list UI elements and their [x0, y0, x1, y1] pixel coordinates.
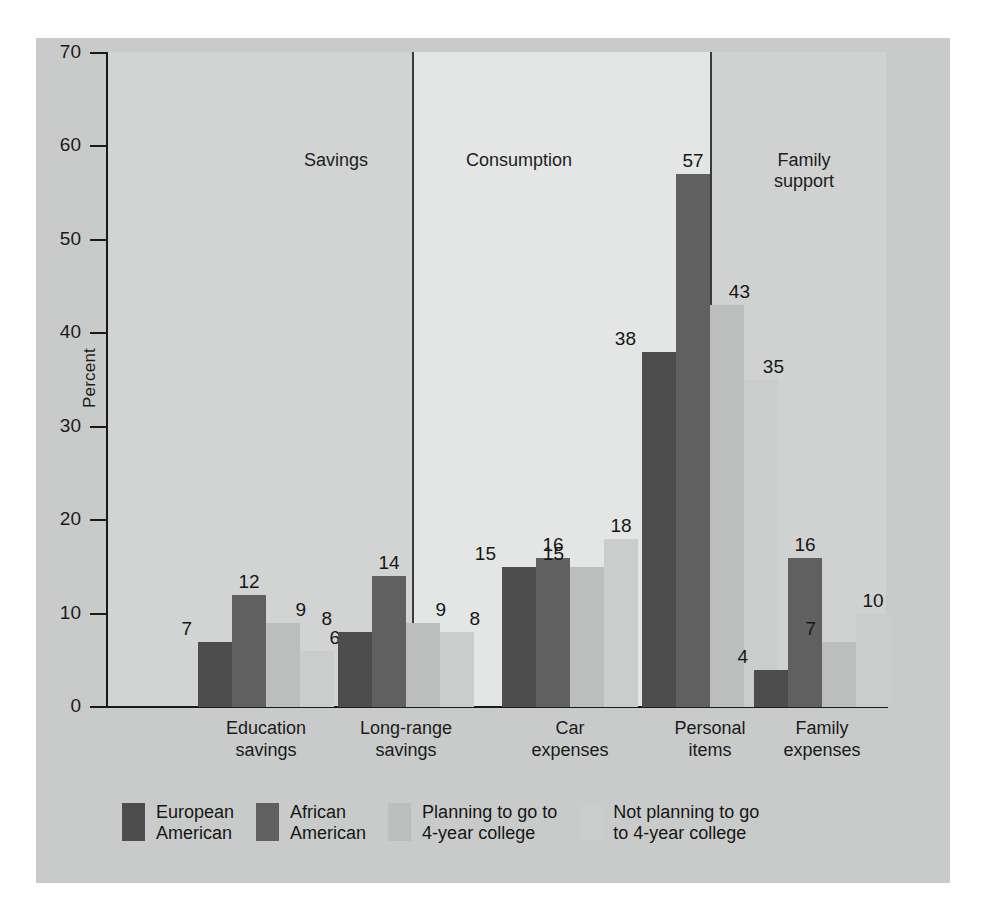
bar-value-label: 10 — [862, 590, 883, 612]
y-tick-label-20: 20 — [60, 508, 81, 530]
legend-item-0: European American — [122, 802, 234, 844]
bar-value-label: 7 — [805, 618, 816, 640]
y-tick-label-30: 30 — [60, 415, 81, 437]
bar-value-label: 38 — [615, 328, 636, 350]
bar: 6 — [300, 651, 334, 707]
legend-swatch-icon — [579, 803, 602, 841]
bar: 57 — [676, 174, 710, 707]
figure-frame: Percent 010203040506070 SavingsConsumpti… — [36, 38, 950, 883]
bar: 38 — [642, 352, 676, 707]
y-tick-50: 50 — [90, 239, 106, 241]
y-tick-label-40: 40 — [60, 321, 81, 343]
y-tick-label-10: 10 — [60, 602, 81, 624]
y-tick-label-50: 50 — [60, 228, 81, 250]
y-axis-line — [106, 52, 108, 708]
bar: 35 — [744, 380, 778, 707]
bar: 16 — [536, 558, 570, 707]
bar-value-label: 8 — [321, 608, 332, 630]
y-axis-label: Percent — [80, 318, 100, 438]
panel-title-1: Consumption — [424, 150, 614, 171]
bar-value-label: 15 — [543, 543, 564, 565]
bar-value-label: 7 — [181, 618, 192, 640]
y-tick-0: 0 — [90, 706, 106, 708]
legend-label: African American — [290, 802, 366, 844]
bar-value-label: 35 — [763, 356, 784, 378]
bar: 8 — [338, 632, 372, 707]
legend-label: Not planning to go to 4-year college — [613, 802, 759, 844]
bar: 10 — [856, 614, 890, 707]
legend-swatch-icon — [388, 803, 411, 841]
bar-value-label: 18 — [610, 515, 631, 537]
bar: 8 — [440, 632, 474, 707]
y-tick-label-60: 60 — [60, 134, 81, 156]
y-tick-label-0: 0 — [70, 695, 81, 717]
y-tick-20: 20 — [90, 519, 106, 521]
bar: 9 — [406, 623, 440, 707]
bar-value-label: 43 — [729, 281, 750, 303]
legend-label: Planning to go to 4-year college — [422, 802, 557, 844]
bar: 4 — [754, 670, 788, 707]
x-group-label-0: Education savings — [196, 718, 336, 761]
bar: 9 — [266, 623, 300, 707]
y-tick-60: 60 — [90, 145, 106, 147]
legend-swatch-icon — [122, 803, 145, 841]
bar-value-label: 9 — [295, 599, 306, 621]
y-tick-label-70: 70 — [60, 41, 81, 63]
bar: 7 — [822, 642, 856, 707]
legend-item-2: Planning to go to 4-year college — [388, 802, 557, 844]
chart-legend: European AmericanAfrican AmericanPlannin… — [122, 802, 912, 844]
bar-value-label: 15 — [475, 543, 496, 565]
bar: 18 — [604, 539, 638, 707]
bar-value-label: 8 — [469, 608, 480, 630]
legend-swatch-icon — [256, 803, 279, 841]
bar: 7 — [198, 642, 232, 707]
bar: 14 — [372, 576, 406, 707]
x-group-label-2: Car expenses — [500, 718, 640, 761]
bar-value-label: 12 — [238, 571, 259, 593]
y-tick-10: 10 — [90, 613, 106, 615]
bar: 15 — [570, 567, 604, 707]
legend-label: European American — [156, 802, 234, 844]
bar-value-label: 14 — [378, 552, 399, 574]
y-tick-40: 40 — [90, 332, 106, 334]
x-group-label-1: Long-range savings — [336, 718, 476, 761]
x-group-label-4: Family expenses — [752, 718, 892, 761]
legend-item-1: African American — [256, 802, 366, 844]
legend-item-3: Not planning to go to 4-year college — [579, 802, 759, 844]
y-tick-70: 70 — [90, 52, 106, 54]
bar-value-label: 9 — [435, 599, 446, 621]
panel-title-0: Savings — [256, 150, 416, 171]
panel-title-2: Family support — [724, 150, 884, 192]
bar: 15 — [502, 567, 536, 707]
bar-value-label: 4 — [737, 646, 748, 668]
bar-value-label: 57 — [682, 150, 703, 172]
y-tick-30: 30 — [90, 426, 106, 428]
plot-area: 010203040506070 SavingsConsumptionFamily… — [106, 52, 786, 707]
bar-value-label: 16 — [794, 534, 815, 556]
bar: 12 — [232, 595, 266, 707]
